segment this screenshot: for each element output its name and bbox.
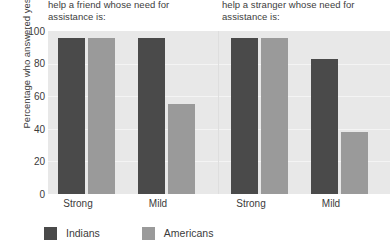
bar-friend-mild-indians [138, 38, 165, 195]
y-tick-40: 40 [5, 125, 45, 135]
bar-friend-mild-americans [168, 104, 195, 194]
panel-title-friend: help a friend whose need for assistance … [48, 0, 223, 22]
y-tick-20: 20 [5, 157, 45, 167]
legend: Indians Americans [44, 227, 213, 240]
y-axis-label: Percentage who answered yes [21, 0, 32, 144]
legend-item-americans: Americans [142, 227, 214, 240]
panel-separator [218, 31, 219, 194]
bar-friend-strong-americans [88, 38, 115, 195]
chart-figure: { "chart_data": { "type": "bar", "title"… [0, 0, 390, 248]
x-tick-stranger-mild: Mild [301, 198, 361, 210]
bar-friend-strong-indians [58, 38, 85, 195]
x-tick-stranger-strong: Strong [221, 198, 281, 210]
plot-area [48, 31, 390, 194]
y-tick-100: 100 [5, 27, 45, 37]
bar-stranger-mild-americans [341, 132, 368, 194]
x-tick-friend-mild: Mild [128, 198, 188, 210]
y-tick-60: 60 [5, 92, 45, 102]
bar-stranger-mild-indians [311, 59, 338, 194]
legend-swatch-indians [44, 227, 57, 240]
legend-label-americans: Americans [164, 228, 214, 239]
legend-label-indians: Indians [66, 228, 100, 239]
bar-stranger-strong-americans [261, 38, 288, 195]
x-tick-friend-strong: Strong [48, 198, 108, 210]
y-tick-80: 80 [5, 59, 45, 69]
y-tick-0: 0 [5, 190, 45, 200]
legend-swatch-americans [142, 227, 155, 240]
bar-stranger-strong-indians [231, 38, 258, 195]
panel-title-stranger: help a stranger whose need for assistanc… [222, 0, 390, 22]
legend-item-indians: Indians [44, 227, 100, 240]
